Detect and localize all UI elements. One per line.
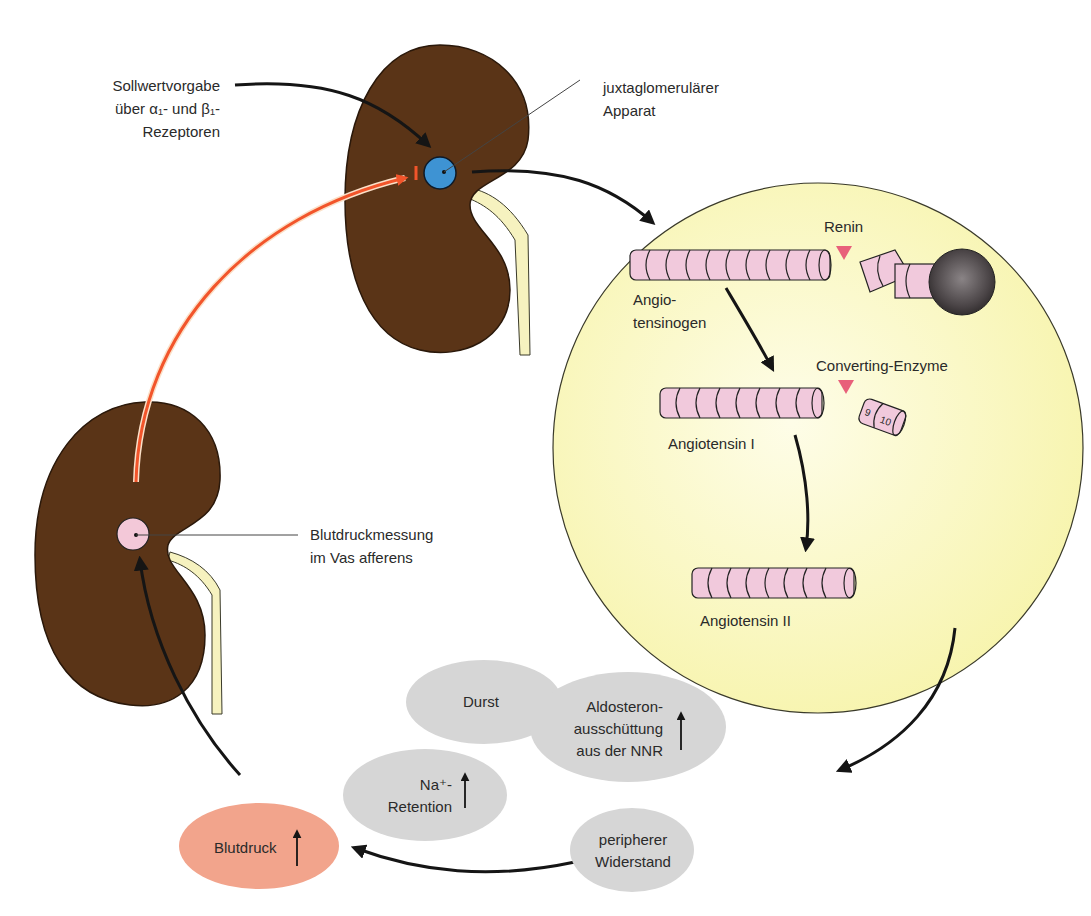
- aldosteron-label: Aldosteron- ausschüttung aus der NNR: [574, 698, 663, 759]
- angiotensin2-chain: [692, 568, 856, 598]
- svg-text:über α₁- und β₁-: über α₁- und β₁-: [115, 100, 220, 117]
- widerstand-blob: [570, 808, 694, 892]
- durst-label: Durst: [463, 693, 500, 710]
- svg-text:ausschüttung: ausschüttung: [574, 720, 663, 737]
- svg-text:Widerstand: Widerstand: [595, 853, 671, 870]
- svg-text:Retention: Retention: [388, 798, 452, 815]
- widerstand-to-blutdruck-arrow: [355, 848, 575, 872]
- sollwert-label: Sollwertvorgabe über α₁- und β₁- Rezepto…: [112, 77, 220, 140]
- kidney-top: [345, 45, 530, 355]
- angiotensin2-label: Angiotensin II: [700, 612, 791, 629]
- svg-text:im Vas afferens: im Vas afferens: [310, 549, 413, 566]
- blutdruckmessung-label: Blutdruckmessung im Vas afferens: [310, 526, 433, 566]
- svg-text:juxtaglomerulärer: juxtaglomerulärer: [602, 79, 719, 96]
- blutdruck-label: Blutdruck: [214, 839, 277, 856]
- svg-text:Angio-: Angio-: [633, 291, 676, 308]
- svg-text:Na⁺-: Na⁺-: [420, 776, 452, 793]
- na-retention-blob: [343, 749, 507, 841]
- svg-text:peripherer: peripherer: [599, 831, 667, 848]
- svg-text:Aldosteron-: Aldosteron-: [586, 698, 663, 715]
- svg-text:Blutdruckmessung: Blutdruckmessung: [310, 526, 433, 543]
- svg-text:aus der NNR: aus der NNR: [576, 742, 663, 759]
- jga-label: juxtaglomerulärer Apparat: [602, 79, 719, 119]
- angiotensin1-label: Angiotensin I: [668, 435, 755, 452]
- renin-label: Renin: [824, 218, 863, 235]
- converting-enzyme-label: Converting-Enzyme: [816, 357, 948, 374]
- angiotensin1-chain: [660, 388, 824, 418]
- raas-diagram: 9 10 Sollwertvorgabe über α₁- und β₁- Re…: [0, 0, 1091, 916]
- kidney-bottom: [35, 402, 222, 714]
- sphere: [929, 249, 995, 315]
- sensor-circle: [117, 518, 149, 550]
- svg-text:Apparat: Apparat: [603, 102, 656, 119]
- svg-text:Sollwertvorgabe: Sollwertvorgabe: [112, 77, 220, 94]
- angiotensinogen-chain: [630, 250, 831, 280]
- jga-circle: [424, 157, 456, 189]
- svg-text:Rezeptoren: Rezeptoren: [142, 123, 220, 140]
- svg-text:tensinogen: tensinogen: [633, 314, 706, 331]
